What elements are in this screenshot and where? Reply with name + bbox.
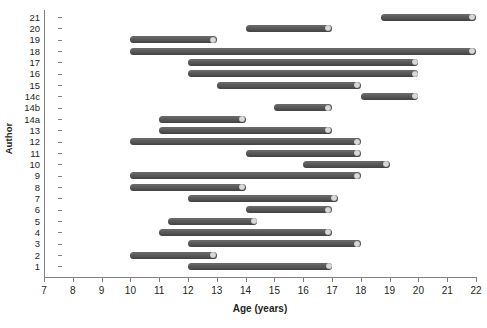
x-tick-label-7: 7: [29, 285, 59, 296]
age-range-chart: Author 2120191817161514c14b14a1312111098…: [0, 0, 487, 328]
x-tick-label-18: 18: [346, 285, 376, 296]
range-bar: [217, 82, 361, 89]
x-axis-title: Age (years): [44, 303, 476, 314]
range-bar: [361, 93, 419, 100]
x-tick-mark-15: [274, 277, 275, 282]
x-tick-mark-11: [159, 277, 160, 282]
x-tick-mark-9: [102, 277, 103, 282]
range-bar: [303, 161, 389, 168]
range-bar: [188, 195, 338, 202]
y-tick-label-14b: 14b: [24, 102, 40, 113]
range-bar: [159, 116, 245, 123]
x-tick-mark-17: [332, 277, 333, 282]
x-tick-label-13: 13: [202, 285, 232, 296]
range-bar: [246, 150, 361, 157]
y-tick-label-8: 8: [35, 182, 40, 193]
x-tick-label-15: 15: [259, 285, 289, 296]
x-tick-mark-7: [44, 277, 45, 282]
x-tick-label-17: 17: [317, 285, 347, 296]
plot-area: [44, 10, 476, 277]
y-tick-label-21: 21: [29, 12, 40, 23]
x-tick-mark-8: [73, 277, 74, 282]
range-bar: [168, 218, 257, 225]
x-tick-label-19: 19: [375, 285, 405, 296]
range-bar: [130, 172, 360, 179]
y-tick-label-4: 4: [35, 227, 40, 238]
x-tick-label-8: 8: [58, 285, 88, 296]
range-bar: [130, 252, 216, 259]
x-axis-line: [44, 277, 476, 278]
y-tick-label-2: 2: [35, 250, 40, 261]
range-bar: [381, 14, 476, 21]
x-tick-mark-14: [246, 277, 247, 282]
range-bar: [130, 184, 245, 191]
range-bar: [130, 138, 360, 145]
x-tick-label-22: 22: [461, 285, 487, 296]
range-bar: [130, 48, 476, 55]
x-tick-label-11: 11: [144, 285, 174, 296]
y-tick-label-7: 7: [35, 193, 40, 204]
y-tick-label-6: 6: [35, 204, 40, 215]
y-tick-label-17: 17: [29, 57, 40, 68]
y-tick-label-20: 20: [29, 23, 40, 34]
range-bar: [188, 59, 418, 66]
x-tick-mark-12: [188, 277, 189, 282]
y-tick-label-9: 9: [35, 170, 40, 181]
x-tick-mark-22: [476, 277, 477, 282]
range-bar: [246, 206, 332, 213]
range-bar: [188, 263, 332, 270]
x-tick-mark-21: [447, 277, 448, 282]
y-tick-label-11: 11: [30, 148, 40, 159]
y-tick-label-13: 13: [29, 125, 40, 136]
y-tick-label-5: 5: [35, 216, 40, 227]
x-tick-mark-19: [390, 277, 391, 282]
x-tick-label-20: 20: [403, 285, 433, 296]
x-tick-label-9: 9: [87, 285, 117, 296]
range-bar: [130, 36, 216, 43]
x-tick-label-16: 16: [288, 285, 318, 296]
y-tick-label-1: 1: [35, 261, 40, 272]
y-tick-label-14a: 14a: [24, 114, 40, 125]
x-tick-label-12: 12: [173, 285, 203, 296]
x-tick-label-10: 10: [115, 285, 145, 296]
x-tick-mark-10: [130, 277, 131, 282]
y-tick-label-14c: 14c: [25, 91, 40, 102]
x-tick-mark-16: [303, 277, 304, 282]
y-tick-label-18: 18: [29, 46, 40, 57]
y-tick-label-15: 15: [29, 80, 40, 91]
y-axis-tick-labels: 2120191817161514c14b14a13121110987654321: [18, 10, 42, 276]
y-tick-label-16: 16: [29, 68, 40, 79]
range-bar: [188, 240, 361, 247]
range-bar: [159, 229, 332, 236]
y-tick-label-12: 12: [29, 136, 40, 147]
range-bar: [246, 25, 332, 32]
y-tick-label-19: 19: [29, 34, 40, 45]
range-bar: [274, 104, 332, 111]
y-tick-label-3: 3: [35, 238, 40, 249]
x-tick-label-21: 21: [432, 285, 462, 296]
range-bar: [188, 70, 418, 77]
y-axis-title: Author: [0, 0, 18, 276]
x-tick-mark-13: [217, 277, 218, 282]
y-tick-label-10: 10: [29, 159, 40, 170]
x-tick-mark-18: [361, 277, 362, 282]
range-bar: [159, 127, 332, 134]
y-axis-title-label: Author: [4, 122, 15, 154]
x-tick-mark-20: [418, 277, 419, 282]
x-tick-label-14: 14: [231, 285, 261, 296]
